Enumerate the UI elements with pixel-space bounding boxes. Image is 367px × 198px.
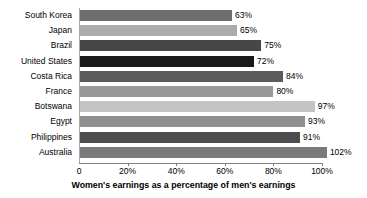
bar-row: 84% (79, 71, 367, 82)
bar-row: 80% (79, 86, 367, 97)
bar-value-label: 75% (264, 39, 281, 51)
category-axis: South KoreaJapanBrazilUnited StatesCosta… (0, 8, 75, 163)
x-axis-tick-label: 80% (265, 166, 282, 177)
bar-row: 102% (79, 147, 367, 158)
x-axis-tick-label: 40% (168, 166, 185, 177)
category-label: France (46, 86, 72, 97)
bar-row: 65% (79, 25, 367, 36)
bar (79, 86, 273, 97)
category-label: Botswana (35, 101, 72, 112)
bar (79, 147, 327, 158)
bar-value-label: 102% (330, 146, 352, 158)
bar (79, 25, 237, 36)
plot-area: 63%65%75%72%84%80%97%93%91%102% (79, 8, 367, 163)
bar (79, 40, 261, 51)
x-axis-title: Women's earnings as a percentage of men'… (0, 180, 367, 190)
category-label: Philippines (31, 132, 72, 143)
x-axis-tick-label: 20% (119, 166, 136, 177)
category-label: Costa Rica (30, 71, 72, 82)
x-axis-tick-label: 100% (311, 166, 333, 177)
category-label: United States (21, 56, 72, 67)
bar (79, 101, 315, 112)
bar-row: 75% (79, 40, 367, 51)
bar (79, 116, 305, 127)
bar (79, 56, 254, 67)
category-label: Australia (39, 147, 72, 158)
bar-value-label: 63% (235, 9, 252, 21)
bar (79, 132, 300, 143)
bar-value-label: 65% (240, 24, 257, 36)
value-axis-origin-line (79, 8, 80, 164)
bar (79, 10, 232, 21)
bar (79, 71, 283, 82)
x-axis-tick-label: 60% (216, 166, 233, 177)
bar-row: 91% (79, 132, 367, 143)
bar-value-label: 84% (286, 70, 303, 82)
category-label: South Korea (25, 10, 72, 21)
value-axis-line (79, 163, 323, 164)
bar-row: 72% (79, 56, 367, 67)
bar-chart: South KoreaJapanBrazilUnited StatesCosta… (0, 0, 367, 198)
category-label: Japan (49, 25, 72, 36)
category-label: Egypt (50, 116, 72, 127)
bar-row: 93% (79, 116, 367, 127)
bar-row: 63% (79, 10, 367, 21)
bar-value-label: 93% (308, 115, 325, 127)
category-label: Brazil (51, 40, 72, 51)
x-axis-tick-label: 0 (77, 166, 82, 177)
bar-value-label: 97% (318, 100, 335, 112)
bar-value-label: 80% (276, 85, 293, 97)
bar-row: 97% (79, 101, 367, 112)
bar-value-label: 91% (303, 131, 320, 143)
bar-value-label: 72% (257, 55, 274, 67)
